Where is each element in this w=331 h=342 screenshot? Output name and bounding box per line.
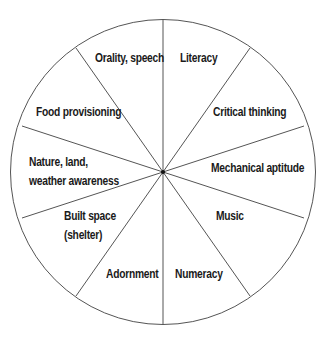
- segment-label-orality: Orality, speech: [95, 49, 164, 68]
- segment-label-nature-line2: weather awareness: [29, 172, 119, 191]
- segment-label-music: Music: [216, 207, 244, 226]
- segment-label-mechanical-aptitude: Mechanical aptitude: [211, 159, 304, 178]
- segment-label-numeracy: Numeracy: [175, 265, 223, 284]
- segment-label-built-space-line2: (shelter): [64, 226, 102, 245]
- segment-label-nature: Nature, land,: [29, 153, 88, 172]
- center-dot: [161, 170, 165, 174]
- segment-label-built-space: Built space: [64, 207, 116, 226]
- segment-label-adornment: Adornment: [106, 265, 158, 284]
- segment-label-literacy: Literacy: [180, 49, 217, 68]
- segment-label-food-provisioning: Food provisioning: [36, 103, 121, 122]
- segment-label-critical-thinking: Critical thinking: [213, 103, 286, 122]
